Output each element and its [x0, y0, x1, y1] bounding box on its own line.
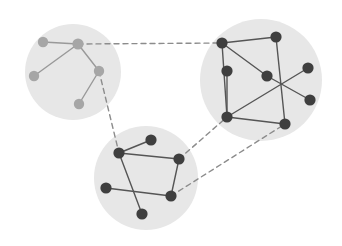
graph-diagram: [0, 0, 342, 246]
graph-node[interactable]: [270, 31, 281, 42]
graph-node[interactable]: [113, 147, 124, 158]
graph-node[interactable]: [216, 37, 227, 48]
graph-node[interactable]: [100, 182, 111, 193]
graph-canvas: [0, 0, 342, 246]
graph-node[interactable]: [302, 62, 313, 73]
cluster-blob-right-cluster: [200, 19, 322, 141]
graph-node[interactable]: [165, 190, 176, 201]
graph-node[interactable]: [261, 70, 272, 81]
graph-node[interactable]: [94, 66, 104, 76]
graph-node[interactable]: [279, 118, 290, 129]
graph-node[interactable]: [74, 99, 84, 109]
graph-node[interactable]: [304, 94, 315, 105]
graph-node[interactable]: [173, 153, 184, 164]
graph-node[interactable]: [221, 111, 232, 122]
graph-node[interactable]: [29, 71, 39, 81]
graph-node[interactable]: [38, 37, 48, 47]
graph-node[interactable]: [145, 134, 156, 145]
graph-node[interactable]: [136, 208, 147, 219]
inter-cluster-edge: [179, 117, 227, 159]
inter-cluster-edge: [78, 43, 222, 44]
graph-node[interactable]: [221, 65, 232, 76]
graph-node[interactable]: [72, 38, 83, 49]
